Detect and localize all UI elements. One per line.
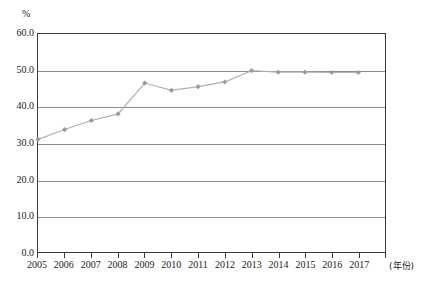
x-tick (37, 253, 38, 258)
data-point-marker (302, 70, 307, 75)
plot-area (37, 33, 386, 253)
x-tick (118, 253, 119, 258)
data-point-marker (89, 118, 94, 123)
data-point-marker (249, 68, 254, 73)
data-point-marker (276, 70, 281, 75)
x-tick (171, 253, 172, 258)
x-tick (225, 253, 226, 258)
x-tick (359, 253, 360, 258)
x-tick (144, 253, 145, 258)
y-tick-label: 0.0 (0, 248, 34, 258)
line-chart: % 60.050.040.030.020.010.00.0 2005200620… (0, 0, 423, 284)
y-axis-tick-labels: 60.050.040.030.020.010.00.0 (0, 0, 34, 284)
x-tick (198, 253, 199, 258)
y-tick-label: 60.0 (0, 28, 34, 38)
data-point-marker (62, 127, 67, 132)
data-point-marker (169, 88, 174, 93)
x-tick (332, 253, 333, 258)
data-point-marker (329, 70, 334, 75)
x-axis-tick-labels: 2005200620072008200920102011201220132014… (0, 259, 423, 275)
x-tick-label: 2017 (339, 259, 379, 271)
y-tick-label: 40.0 (0, 101, 34, 111)
x-axis-title: (年份) (389, 261, 414, 272)
x-tick (279, 253, 280, 258)
y-tick-label: 20.0 (0, 175, 34, 185)
data-point-marker (222, 79, 227, 84)
data-point-marker (356, 70, 361, 75)
x-tick (305, 253, 306, 258)
x-tick (252, 253, 253, 258)
data-point-marker (35, 137, 40, 142)
series-line (38, 34, 385, 252)
y-tick-label: 30.0 (0, 138, 34, 148)
series-polyline (38, 71, 358, 140)
y-tick-label: 50.0 (0, 65, 34, 75)
x-tick (64, 253, 65, 258)
y-tick-label: 10.0 (0, 211, 34, 221)
x-tick (91, 253, 92, 258)
x-tick (385, 253, 386, 258)
data-point-marker (196, 84, 201, 89)
